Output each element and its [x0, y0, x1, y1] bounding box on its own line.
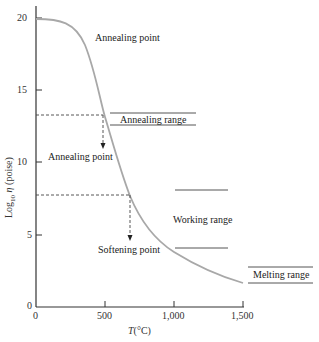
softening-arrow-icon: [128, 235, 133, 241]
y-axis-prefix: Log: [3, 202, 14, 218]
y-tick-label-5: 5: [27, 230, 32, 240]
x-tick-label-1000: 1,000: [162, 311, 185, 321]
annotation-annealing-range: Annealing range: [120, 115, 186, 125]
x-axis-unit: (°C): [134, 325, 151, 336]
y-axis-subscript: 10: [9, 195, 17, 202]
annotation-top-annealing-point: Annealing point: [95, 33, 160, 43]
chart-canvas: [0, 0, 319, 342]
y-axis-var: η: [3, 187, 14, 194]
y-axis-unit: (poise): [3, 157, 14, 187]
x-tick-label-1500: 1,500: [231, 311, 254, 321]
annealing-arrow-icon: [101, 143, 106, 149]
annotation-melting-range: Melting range: [253, 270, 309, 280]
x-tick-label-0: 0: [33, 311, 38, 321]
y-tick-label-0: 0: [27, 301, 32, 311]
x-axis-title: T(°C): [128, 326, 151, 336]
y-tick-label-15: 15: [17, 85, 27, 95]
annotation-softening-point: Softening point: [98, 245, 160, 255]
annotation-working-range: Working range: [173, 215, 232, 225]
y-tick-label-10: 10: [17, 157, 27, 167]
y-tick-label-20: 20: [17, 13, 27, 23]
x-tick-label-500: 500: [97, 311, 112, 321]
annotation-annealing-point: Annealing point: [48, 152, 113, 162]
y-axis-title: Log10 η (poise): [4, 157, 17, 218]
